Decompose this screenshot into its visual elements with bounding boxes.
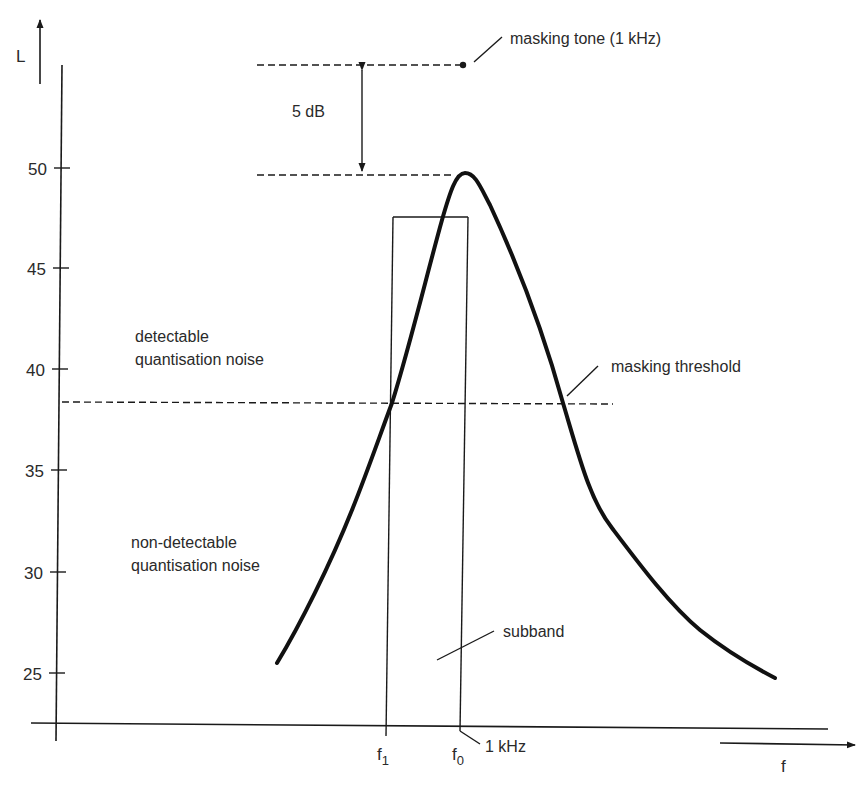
y-tick-35: 35: [25, 462, 44, 481]
non-detectable-region-label-line2: quantisation noise: [131, 557, 260, 574]
difference-label: 5 dB: [292, 103, 325, 120]
y-tick-25: 25: [23, 665, 42, 684]
x-direction-arrow: [720, 743, 855, 745]
y-axis: [56, 65, 62, 741]
subband-leader: [437, 631, 494, 660]
f0-label: f0: [452, 745, 464, 768]
subband-box: [386, 217, 468, 736]
subband-label: subband: [503, 623, 564, 640]
y-tick-40: 40: [26, 361, 45, 380]
masking-threshold-curve: [277, 173, 775, 678]
detectable-region-label: detectable: [135, 328, 209, 345]
masking-threshold-label: masking threshold: [611, 358, 741, 375]
quantisation-noise-level-line: [62, 402, 613, 404]
masking-tone-leader: [474, 37, 502, 62]
masking-threshold-leader: [567, 366, 598, 396]
f0-note-label: 1 kHz: [485, 738, 526, 755]
f1-label: f1: [377, 745, 389, 768]
y-tick-30: 30: [24, 564, 43, 583]
detectable-region-label-line2: quantisation noise: [135, 351, 264, 368]
f0-note-leader: [460, 731, 480, 744]
masking-diagram: L 50 45 40 35 30 25 f masking tone (1 kH…: [0, 0, 861, 786]
y-axis-label: L: [16, 47, 25, 66]
masking-tone-dot: [460, 62, 466, 68]
x-axis-label: f: [781, 757, 786, 776]
masking-tone-label: masking tone (1 kHz): [510, 30, 661, 47]
x-axis: [31, 723, 828, 729]
y-tick-50: 50: [28, 160, 47, 179]
non-detectable-region-label: non-detectable: [131, 534, 237, 551]
y-tick-45: 45: [27, 260, 46, 279]
